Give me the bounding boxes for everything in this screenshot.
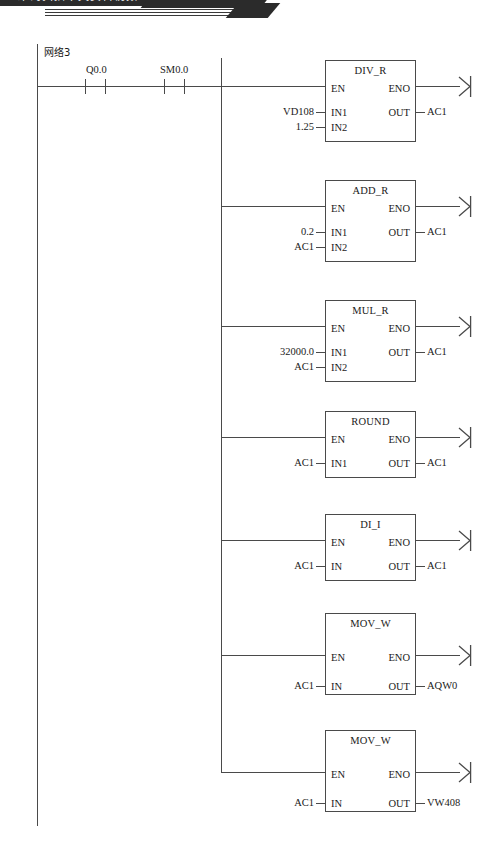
left-power-rail [37,44,38,826]
branch-vertical-rail [221,58,222,773]
operand-out: AQW0 [427,680,457,691]
function-block-title: ROUND [326,416,415,427]
eno-line-2 [416,206,460,207]
pin-en: EN [331,203,345,214]
eno-arrow-icon [458,645,474,666]
stub-out [416,112,425,113]
operand-out: AC1 [427,106,447,117]
operand-out: VW408 [427,797,460,808]
eno-arrow-icon [458,530,474,551]
contact-sm00[interactable] [164,79,185,94]
contact-bar-left [164,79,165,94]
operand-in1: 0.2 [256,226,314,237]
eno-line-7 [416,772,460,773]
function-block-title: MOV_W [326,735,415,746]
pin-eno: ENO [388,769,410,780]
eno-arrow-icon [458,196,474,217]
contact-bar-right [105,79,106,94]
branch-line-5 [221,540,326,541]
branch-line-7 [221,772,326,773]
pin-eno: ENO [388,652,410,663]
pin-out: OUT [388,107,410,118]
stub-out [416,232,425,233]
branch-line-1 [221,86,326,87]
function-block-di-i[interactable]: DI_I EN ENO IN OUT [325,514,416,581]
contact-label-q00: Q0.0 [86,64,107,75]
function-block-round[interactable]: ROUND EN ENO IN1 OUT [325,411,416,478]
stub-in2 [316,127,325,128]
stub-in1 [316,112,325,113]
operand-in2: 1.25 [256,121,314,132]
operand-out: AC1 [427,457,447,468]
pin-out: OUT [388,227,410,238]
stub-out [416,803,425,804]
pin-en: EN [331,83,345,94]
eno-arrow-icon [458,316,474,337]
eno-arrow-icon [458,76,474,97]
pin-eno: ENO [388,434,410,445]
contact-q00[interactable] [85,79,106,94]
pin-in: IN [331,561,342,572]
function-block-mov-w-aqw0[interactable]: MOV_W EN ENO IN OUT [325,613,416,695]
stub-in [316,566,325,567]
pin-out: OUT [388,347,410,358]
pin-eno: ENO [388,323,410,334]
function-block-title: MUL_R [326,305,415,316]
pin-en: EN [331,652,345,663]
eno-line-4 [416,437,460,438]
pin-eno: ENO [388,203,410,214]
function-block-title: DI_I [326,519,415,530]
stub-in2 [316,247,325,248]
banner-title: 二维码扫描中文资料视频 [6,0,138,3]
operand-in: AC1 [256,797,314,808]
stub-in [316,803,325,804]
pin-out: OUT [388,458,410,469]
pin-eno: ENO [388,537,410,548]
operand-in: AC1 [256,680,314,691]
pin-in1: IN1 [331,227,347,238]
page-header-banner: 二维码扫描中文资料视频 [0,0,494,26]
pin-en: EN [331,769,345,780]
network-label: 网络3 [44,47,70,58]
stub-in1 [316,352,325,353]
branch-line-6 [221,655,326,656]
pin-out: OUT [388,561,410,572]
function-block-mul-r[interactable]: MUL_R EN ENO IN1 IN2 OUT [325,300,416,382]
operand-in2: AC1 [246,361,314,372]
stub-out [416,463,425,464]
operand-in1: VD108 [256,106,314,117]
stub-in [316,686,325,687]
operand-in2: AC1 [256,241,314,252]
operand-out: AC1 [427,226,447,237]
function-block-div-r[interactable]: DIV_R EN ENO IN1 IN2 OUT [325,60,416,142]
operand-in1: AC1 [256,457,314,468]
pin-in1: IN1 [331,107,347,118]
operand-in1: 32000.0 [246,346,314,357]
stub-in1 [316,463,325,464]
pin-en: EN [331,537,345,548]
eno-arrow-icon [458,762,474,783]
stub-in1 [316,232,325,233]
rung-main-line [37,86,222,87]
eno-line-6 [416,655,460,656]
pin-in1: IN1 [331,458,347,469]
ladder-diagram-page: 二维码扫描中文资料视频 网络3 Q0.0 SM0.0 DIV_R EN ENO … [0,0,494,854]
pin-in2: IN2 [331,122,347,133]
contact-bar-right [184,79,185,94]
function-block-mov-w-vw408[interactable]: MOV_W EN ENO IN OUT [325,730,416,812]
contact-label-sm00: SM0.0 [160,64,188,75]
branch-line-4 [221,437,326,438]
pin-out: OUT [388,798,410,809]
stub-out [416,352,425,353]
function-block-title: ADD_R [326,185,415,196]
eno-line-1 [416,86,460,87]
banner-rule-3 [45,15,245,16]
pin-in2: IN2 [331,362,347,373]
pin-out: OUT [388,681,410,692]
function-block-title: MOV_W [326,618,415,629]
pin-in: IN [331,798,342,809]
function-block-add-r[interactable]: ADD_R EN ENO IN1 IN2 OUT [325,180,416,262]
banner-rule-1 [45,9,237,10]
operand-in: AC1 [256,560,314,571]
eno-line-3 [416,326,460,327]
